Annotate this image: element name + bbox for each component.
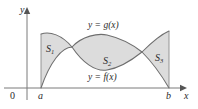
x-tick-label-b: b bbox=[166, 91, 171, 101]
origin-label: 0 bbox=[10, 91, 15, 101]
region-label-s2: S2 bbox=[103, 56, 111, 66]
region-label-s3-subscript: 3 bbox=[160, 57, 163, 64]
y-axis-label: y bbox=[20, 5, 24, 15]
y-axis-arrowhead bbox=[24, 7, 30, 14]
x-tick-label-a: a bbox=[38, 91, 43, 101]
area-between-curves-figure: y x 0 a b S1 S2 S3 y = g(x) y = f(x) bbox=[0, 0, 198, 109]
region-s1-fill bbox=[41, 33, 72, 88]
region-label-s3: S3 bbox=[155, 53, 163, 63]
curve-label-f: y = f(x) bbox=[88, 73, 117, 83]
curve-label-g: y = g(x) bbox=[88, 21, 119, 31]
x-axis-label: x bbox=[184, 91, 188, 101]
region-label-s1-subscript: 1 bbox=[51, 48, 54, 55]
region-label-s1: S1 bbox=[46, 44, 54, 54]
region-label-s2-subscript: 2 bbox=[108, 60, 111, 67]
